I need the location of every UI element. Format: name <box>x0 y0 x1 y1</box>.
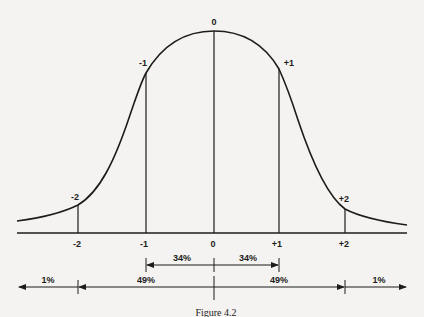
axis-label-minus-1: -1 <box>140 239 148 249</box>
label-curve-plus-1: +1 <box>284 58 294 68</box>
label-34-left: 34% <box>173 253 191 263</box>
label-curve-plus-2: +2 <box>339 194 349 204</box>
axis-label-0: 0 <box>210 239 215 249</box>
label-curve-minus-2: -2 <box>71 192 79 202</box>
normal-distribution-diagram: 0 -1 +1 -2 +2 -2 -1 0 +1 +2 34% 34% 1% 4… <box>0 0 424 317</box>
axis-label-minus-2: -2 <box>73 239 81 249</box>
label-49-left: 49% <box>137 275 155 285</box>
label-49-right: 49% <box>270 275 288 285</box>
axis-label-plus-2: +2 <box>339 239 349 249</box>
axis-label-plus-1: +1 <box>272 239 282 249</box>
label-1-left: 1% <box>41 275 54 285</box>
label-peak: 0 <box>211 17 216 27</box>
label-curve-minus-1: -1 <box>139 58 147 68</box>
label-34-right: 34% <box>239 253 257 263</box>
figure-caption: Figure 4.2 <box>195 307 236 317</box>
label-1-right: 1% <box>372 275 385 285</box>
